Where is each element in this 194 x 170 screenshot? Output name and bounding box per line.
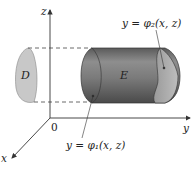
z-axis-label: z [41,6,47,17]
region-d-label: D [21,70,30,81]
origin-label: 0 [51,122,58,133]
diagram: z y x 0 D E y = φ₂(x, z) y = φ₁(x, z) [0,0,194,170]
surface-phi1-label: y = φ₁(x, z) [66,140,125,151]
x-axis-label: x [1,153,7,164]
y-axis-label: y [183,123,189,134]
solid-e [81,48,180,103]
surface-phi2-label: y = φ₂(x, z) [122,18,181,29]
solid-e-label: E [120,70,128,81]
x-axis [12,118,50,158]
